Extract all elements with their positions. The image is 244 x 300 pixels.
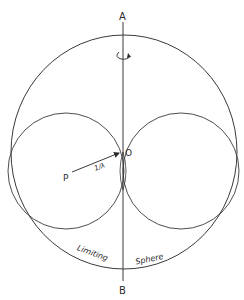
label-a: A [119,11,126,22]
left-sphere [8,113,124,229]
label-b: B [119,285,126,296]
label-sphere: Sphere [135,252,165,267]
label-o: O [125,148,132,158]
label-p: P [63,173,69,183]
limiting-sphere-diagram: A B O P 1/λ Limiting Sphere [0,0,244,300]
rotation-arrow-icon [117,52,131,59]
limiting-sphere [11,35,237,269]
